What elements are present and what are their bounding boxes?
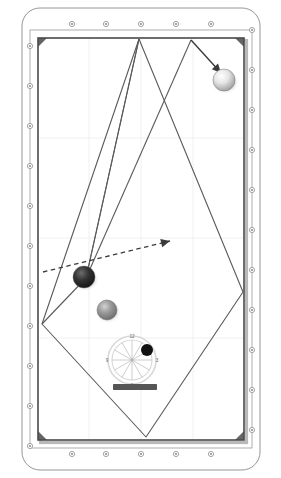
dial-hour-label-9: 9	[106, 358, 109, 363]
diamond-marker-core-right-1	[251, 69, 253, 71]
diamond-marker-core-left-1	[29, 85, 31, 87]
diamond-marker-core-bottom-4	[210, 453, 212, 455]
diamond-marker-core-right-7	[251, 309, 253, 311]
cue-tip-bar[interactable]	[113, 384, 157, 390]
diamond-marker-core-right-3	[251, 149, 253, 151]
diamond-marker-core-bottom-0	[71, 453, 73, 455]
dial-hour-label-3: 3	[156, 358, 159, 363]
diamond-marker-core-right-6	[251, 269, 253, 271]
diamond-marker-core-right-9	[251, 389, 253, 391]
diamond-marker-core-top-1	[105, 23, 107, 25]
diamond-marker-core-top-2	[140, 23, 142, 25]
diamond-marker-core-left-8	[29, 365, 31, 367]
diamond-marker-core-left-4	[29, 205, 31, 207]
diamond-marker-core-left-6	[29, 285, 31, 287]
diamond-marker-core-right-8	[251, 349, 253, 351]
diamond-marker-core-top-4	[210, 23, 212, 25]
diamond-marker-core-left-5	[29, 245, 31, 247]
diamond-marker-core-left-9	[29, 405, 31, 407]
diamond-marker-core-right-5	[251, 229, 253, 231]
diamond-marker-core-right-4	[251, 189, 253, 191]
diamond-marker-core-bottom-2	[140, 453, 142, 455]
diamond-marker-core-left-10	[29, 445, 31, 447]
diamond-marker-core-bottom-3	[175, 453, 177, 455]
billiards-diagram-canvas: 12369	[0, 0, 281, 478]
dial-contact-dot[interactable]	[141, 344, 153, 356]
diamond-marker-core-right-0	[251, 29, 253, 31]
diagram-svg: 12369	[0, 0, 281, 478]
diamond-marker-core-top-3	[175, 23, 177, 25]
cue-ball[interactable]	[213, 69, 235, 91]
diamond-marker-core-bottom-1	[105, 453, 107, 455]
diamond-marker-core-left-0	[29, 45, 31, 47]
diamond-marker-core-right-10	[251, 429, 253, 431]
diamond-marker-core-left-2	[29, 125, 31, 127]
dial-hour-label-12: 12	[129, 334, 135, 339]
diamond-marker-core-left-3	[29, 165, 31, 167]
dial-center-dot	[131, 359, 134, 362]
secondary-ball[interactable]	[97, 300, 117, 320]
diamond-marker-core-right-2	[251, 109, 253, 111]
object-ball[interactable]	[73, 266, 95, 288]
diamond-marker-core-top-0	[71, 23, 73, 25]
diamond-marker-core-left-7	[29, 325, 31, 327]
